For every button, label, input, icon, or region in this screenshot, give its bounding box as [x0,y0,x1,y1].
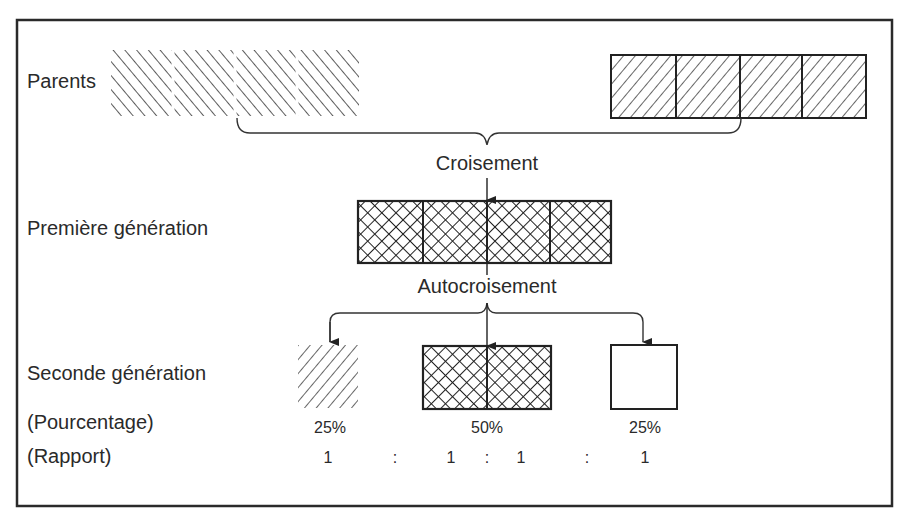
ratio-separator-2: : [485,449,489,466]
ratio-label: (Rapport) [27,445,111,467]
second-generation-label: Seconde génération [27,362,206,384]
first-generation-label: Première génération [27,217,208,239]
offspring-crosshatched-block [423,346,551,409]
first-generation-block [358,201,611,263]
self-cross-label: Autocroisement [418,275,557,297]
cross-label: Croisement [436,152,539,174]
offspring-hatched-block [298,345,358,408]
ratio-separator-1: : [393,449,397,466]
parent-right-block [611,55,866,118]
percentage-label: (Pourcentage) [27,411,154,433]
parents-brace [237,118,741,145]
parent-left-block [111,50,359,116]
percentage-value-3: 25% [629,419,661,436]
ratio-value-2: 1 [447,449,456,466]
ratio-separator-3: : [585,449,589,466]
ratio-value-1: 1 [324,449,333,466]
ratio-value-3: 1 [517,449,526,466]
percentage-value-2: 50% [471,419,503,436]
parents-label: Parents [27,70,96,92]
offspring-empty-block [611,345,677,409]
percentage-value-1: 25% [314,419,346,436]
ratio-value-4: 1 [641,449,650,466]
genetics-cross-diagram: Parents Croisement Première génération A… [0,0,907,521]
